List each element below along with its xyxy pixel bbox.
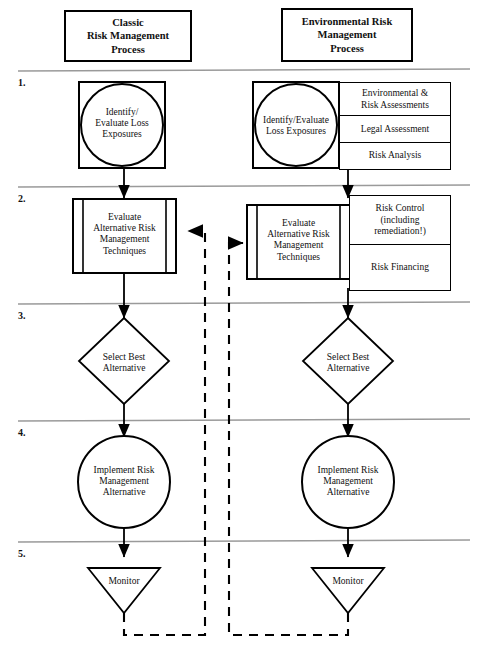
left-step5-shape <box>88 568 160 613</box>
right-step3-shape <box>303 318 393 404</box>
right-step2-shape <box>247 205 350 279</box>
side-box-1-line2: Risk Assessments <box>361 100 429 111</box>
side-box-risk-analysis: Risk Analysis <box>339 142 451 170</box>
side-box-environmental-risk-assessments: Environmental & Risk Assessments <box>339 82 451 117</box>
side-box-4-line3: remediation!) <box>374 226 426 237</box>
header-box-classic: Classic Risk Management Process <box>64 10 192 62</box>
right-step5-shape <box>312 568 384 613</box>
step-number-2: 2. <box>18 193 26 204</box>
header-left-line2: Risk Management <box>87 29 169 42</box>
header-right-line1: Environmental Risk <box>302 15 393 28</box>
header-right-line2: Management <box>302 28 393 41</box>
side-box-5-line1: Risk Financing <box>371 262 429 273</box>
side-box-4-line1: Risk Control <box>374 203 426 214</box>
side-box-risk-control: Risk Control (including remediation!) <box>349 195 451 246</box>
right-step4-shape <box>302 436 394 528</box>
header-left-line1: Classic <box>87 16 169 29</box>
left-step2-shape <box>73 199 176 273</box>
left-step4-shape <box>78 436 170 528</box>
side-box-2-line1: Legal Assessment <box>361 124 429 135</box>
right-step1-shape <box>253 82 339 168</box>
step-number-3: 3. <box>18 310 26 321</box>
side-box-4-line2: (including <box>374 215 426 226</box>
flowchart-diagram: Classic Risk Management Process Environm… <box>0 0 478 654</box>
side-box-1-line1: Environmental & <box>361 88 429 99</box>
side-box-risk-financing: Risk Financing <box>349 244 451 291</box>
side-box-legal-assessment: Legal Assessment <box>339 115 451 144</box>
step-number-4: 4. <box>18 427 26 438</box>
side-box-3-line1: Risk Analysis <box>369 150 422 161</box>
left-step3-shape <box>79 318 169 404</box>
left-step1-shape <box>79 82 165 168</box>
step-number-5: 5. <box>18 548 26 559</box>
header-right-line3: Process <box>302 42 393 55</box>
step-number-1: 1. <box>18 77 26 88</box>
header-left-line3: Process <box>87 43 169 56</box>
header-box-environmental: Environmental Risk Management Process <box>281 8 413 62</box>
